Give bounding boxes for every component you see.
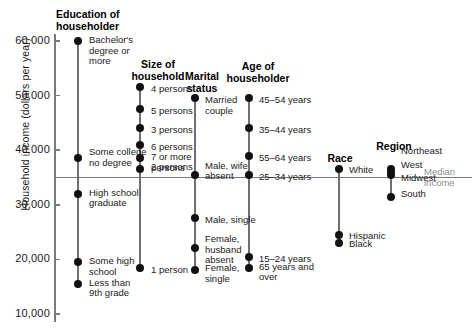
data-point[interactable] xyxy=(245,171,253,179)
data-point[interactable] xyxy=(136,141,144,149)
y-axis-tick xyxy=(54,95,60,97)
data-point[interactable] xyxy=(245,152,253,160)
data-point-label: Midwest xyxy=(401,173,436,184)
y-axis-tick xyxy=(54,313,60,315)
y-axis-tick-label: 50,000 xyxy=(0,89,50,101)
data-point-label: 4 persons xyxy=(151,84,193,95)
y-axis-title: Household income (dollars per year) xyxy=(19,29,31,219)
series-title-education-of-householder: Education of householder xyxy=(56,8,176,32)
y-axis-tick-label: 60,000 xyxy=(0,34,50,46)
data-point-label: Some high school xyxy=(89,256,134,277)
y-axis-tick xyxy=(54,204,60,206)
data-point[interactable] xyxy=(335,165,343,173)
chart-canvas: Household income (dollars per year) 10,0… xyxy=(0,0,472,329)
data-point[interactable] xyxy=(191,171,199,179)
data-point-label: 1 person xyxy=(151,265,188,276)
data-point-label: Female, husband absent xyxy=(205,234,241,266)
y-axis-tick-label: 30,000 xyxy=(0,198,50,210)
data-point[interactable] xyxy=(74,280,82,288)
data-point-label: South xyxy=(401,189,426,200)
data-point[interactable] xyxy=(136,124,144,132)
data-point-label: 2 persons xyxy=(151,162,193,173)
y-axis-tick xyxy=(54,149,60,151)
data-point-label: Male, wife absent xyxy=(205,161,248,182)
data-point-label: West xyxy=(401,160,422,171)
data-point[interactable] xyxy=(245,94,253,102)
data-point[interactable] xyxy=(191,244,199,252)
data-point[interactable] xyxy=(335,239,343,247)
data-point[interactable] xyxy=(136,165,144,173)
data-point[interactable] xyxy=(245,264,253,272)
series-stem xyxy=(139,87,142,267)
data-point[interactable] xyxy=(136,83,144,91)
data-point-label: Male, single xyxy=(205,215,256,226)
data-point-label: High school graduate xyxy=(89,188,139,209)
data-point-label: Less than 9th grade xyxy=(89,278,130,299)
y-axis-tick xyxy=(54,259,60,261)
data-point-label: Black xyxy=(349,239,372,250)
data-point-label: 55–64 years xyxy=(259,153,311,164)
data-point-label: Bachelor's degree or more xyxy=(89,35,133,67)
data-point[interactable] xyxy=(387,193,395,201)
series-title-race: Race xyxy=(310,152,370,164)
data-point[interactable] xyxy=(335,231,343,239)
data-point[interactable] xyxy=(74,37,82,45)
y-axis-tick-label: 20,000 xyxy=(0,252,50,264)
data-point[interactable] xyxy=(74,190,82,198)
data-point[interactable] xyxy=(191,214,199,222)
data-point-label: Married couple xyxy=(205,95,237,116)
data-point-label: Female, single xyxy=(205,263,239,284)
y-axis-tick xyxy=(54,40,60,42)
data-point[interactable] xyxy=(245,124,253,132)
data-point[interactable] xyxy=(191,94,199,102)
data-point-label: 35–44 years xyxy=(259,125,311,136)
data-point[interactable] xyxy=(136,105,144,113)
data-point-label: 3 persons xyxy=(151,125,193,136)
data-point-label: 65 years and over xyxy=(259,262,314,283)
data-point[interactable] xyxy=(74,258,82,266)
data-point-label: Northeast xyxy=(401,146,442,157)
series-title-age-of-householder: Age of householder xyxy=(208,60,308,84)
data-point[interactable] xyxy=(74,154,82,162)
y-axis-tick-label: 40,000 xyxy=(0,143,50,155)
data-point[interactable] xyxy=(136,264,144,272)
data-point-label: 5 persons xyxy=(151,106,193,117)
data-point[interactable] xyxy=(387,171,395,179)
data-point[interactable] xyxy=(191,266,199,274)
data-point[interactable] xyxy=(245,253,253,261)
data-point-label: White xyxy=(349,165,373,176)
y-axis-tick-label: 10,000 xyxy=(0,307,50,319)
data-point-label: 45–54 years xyxy=(259,95,311,106)
series-stem xyxy=(77,41,80,284)
data-point-label: 25–34 years xyxy=(259,172,311,183)
